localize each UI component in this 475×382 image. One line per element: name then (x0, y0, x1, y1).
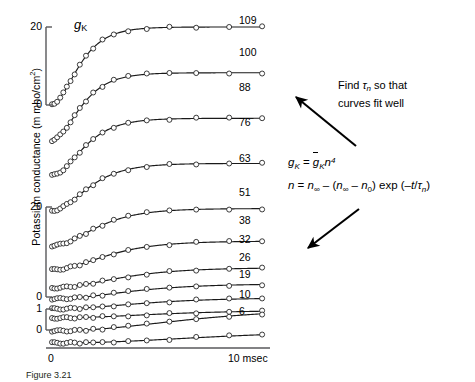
gk-subscript: K (81, 23, 87, 33)
data-point (227, 115, 232, 120)
curve-88 (50, 115, 265, 177)
data-point (100, 37, 105, 42)
data-point (260, 265, 265, 270)
y-tick-label: 20 (12, 20, 42, 32)
data-point (77, 105, 82, 110)
data-point (77, 315, 82, 320)
curve-51 (50, 239, 265, 273)
data-point (83, 260, 88, 265)
data-point (77, 327, 82, 332)
data-point (167, 337, 172, 342)
data-point (227, 239, 232, 244)
data-point (111, 340, 116, 345)
data-point (77, 306, 82, 311)
data-point (126, 247, 131, 252)
data-point (83, 187, 88, 192)
data-point (68, 159, 73, 164)
data-point (111, 32, 116, 37)
data-point (111, 77, 116, 82)
data-point (260, 207, 265, 212)
data-point (260, 24, 265, 29)
data-point (58, 95, 63, 100)
y-axis-title-tail: ) (30, 68, 42, 72)
data-point (64, 164, 69, 169)
data-point (260, 160, 265, 165)
data-point (61, 168, 66, 173)
data-point (91, 281, 96, 286)
data-point (194, 317, 199, 322)
data-point (64, 84, 69, 89)
data-point (194, 239, 199, 244)
data-point (227, 161, 232, 166)
data-point (144, 210, 149, 215)
data-point (126, 302, 131, 307)
x-tick-end: 10 msec (228, 352, 268, 364)
data-point (83, 143, 88, 148)
data-point (91, 226, 96, 231)
curve-100 (50, 70, 265, 143)
data-point (144, 165, 149, 170)
data-point (167, 319, 172, 324)
curve-label-10: 10 (239, 288, 251, 300)
curves-layer (50, 24, 265, 346)
curve-label-76: 76 (239, 116, 251, 128)
y-axis-title-exponent: 2 (28, 71, 37, 75)
data-point (83, 328, 88, 333)
data-point (126, 213, 131, 218)
data-point (144, 26, 149, 31)
data-point (260, 116, 265, 121)
data-point (126, 275, 131, 280)
data-point (126, 289, 131, 294)
data-point (144, 286, 149, 291)
data-point (72, 340, 77, 345)
curve-label-100: 100 (239, 46, 257, 58)
data-point (91, 90, 96, 95)
data-point (83, 231, 88, 236)
data-point (100, 314, 105, 319)
data-point (77, 233, 82, 238)
data-point (100, 327, 105, 332)
data-point (100, 223, 105, 228)
data-point (111, 325, 116, 330)
data-point (77, 341, 82, 346)
data-point (83, 281, 88, 286)
data-point (194, 334, 199, 339)
data-point (167, 70, 172, 75)
data-point (68, 79, 73, 84)
data-point (167, 269, 172, 274)
data-point (100, 130, 105, 135)
data-point (91, 326, 96, 331)
data-point (72, 113, 77, 118)
data-point (100, 340, 105, 345)
data-point (126, 120, 131, 125)
y-scale-bar-1 (46, 207, 52, 297)
curve-label-109: 109 (239, 14, 257, 26)
data-point (72, 284, 77, 289)
data-point (194, 207, 199, 212)
data-point (167, 208, 172, 213)
curve-label-88: 88 (239, 81, 251, 93)
data-point (77, 62, 82, 67)
data-point (83, 305, 88, 310)
data-point (167, 243, 172, 248)
data-point (227, 314, 232, 319)
note-line-2: curves fit well (338, 97, 404, 109)
data-point (83, 99, 88, 104)
curve-label-26: 26 (239, 251, 251, 263)
data-point (77, 263, 82, 268)
data-point (227, 71, 232, 76)
data-point (111, 217, 116, 222)
data-point (144, 313, 149, 318)
data-point (144, 321, 149, 326)
data-point (167, 311, 172, 316)
data-point (260, 71, 265, 76)
data-point (194, 115, 199, 120)
data-point (227, 296, 232, 301)
data-point (72, 155, 77, 160)
data-point (72, 295, 77, 300)
curve-label-51: 51 (239, 186, 251, 198)
data-point (126, 168, 131, 173)
data-point (77, 192, 82, 197)
x-tick-start: 0 (48, 352, 54, 364)
data-point (64, 125, 69, 130)
